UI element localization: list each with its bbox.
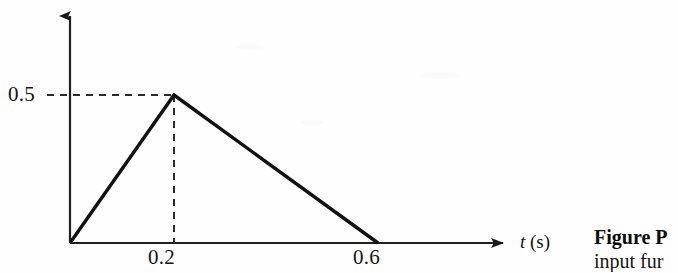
x-tick-label-0-2: 0.2 <box>148 245 175 270</box>
x-axis-unit: (s) <box>530 231 550 252</box>
figure-caption-title: Figure P <box>594 227 678 249</box>
x-axis-label: t (s) <box>520 231 550 253</box>
figure-caption-body: input fur <box>594 251 678 273</box>
figure-container: 0.5 0.2 0.6 t (s) Figure P input fur <box>0 0 678 273</box>
plot-canvas <box>0 0 678 273</box>
y-tick-label-0-5: 0.5 <box>8 82 35 107</box>
figure-caption: Figure P input fur <box>594 227 678 272</box>
waveform-triangular-pulse <box>70 95 378 243</box>
x-tick-label-0-6: 0.6 <box>353 245 380 270</box>
